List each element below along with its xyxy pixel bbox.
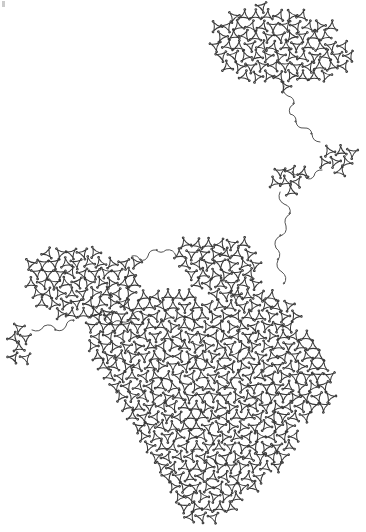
- scribble-map-drawing: [0, 0, 366, 532]
- artwork-canvas: [0, 0, 366, 532]
- corner-artifact-mark: [2, 1, 5, 7]
